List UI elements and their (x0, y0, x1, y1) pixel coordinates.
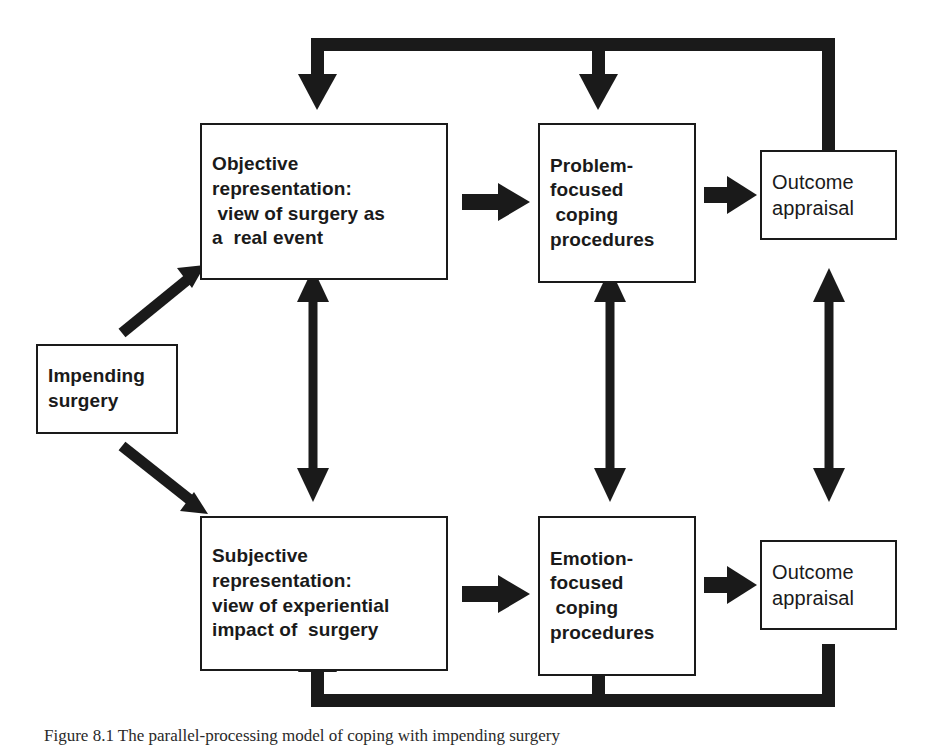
node-outcome-appraisal-bottom: Outcome appraisal (760, 540, 897, 630)
connector-coping-link (594, 268, 626, 502)
connector-representation-link (297, 268, 329, 502)
node-line: coping (550, 203, 684, 228)
node-line: focused (550, 571, 684, 596)
node-line: representation: (212, 569, 436, 594)
figure-caption: Figure 8.1 The parallel-processing model… (44, 726, 904, 746)
node-line: Problem- (550, 154, 684, 179)
node-subjective-representation: Subjective representation: view of exper… (200, 516, 448, 671)
node-line: procedures (550, 621, 684, 646)
node-line: Outcome (772, 169, 885, 195)
node-line: Objective (212, 152, 436, 177)
node-impending-surgery: Impending surgery (36, 344, 178, 434)
node-line: focused (550, 178, 684, 203)
connector-impending-to-subjective (122, 446, 208, 514)
node-line: impact of surgery (212, 618, 436, 643)
node-emotion-focused-coping: Emotion- focused coping procedures (538, 516, 696, 676)
node-line: view of surgery as (212, 202, 436, 227)
connector-objective-to-problem-focused (462, 183, 530, 221)
connector-subjective-to-emotion-focused (462, 575, 530, 613)
node-line: coping (550, 596, 684, 621)
node-line: Outcome (772, 559, 885, 585)
node-objective-representation: Objective representation: view of surger… (200, 123, 448, 280)
connector-problem-focused-to-outcome-top (704, 176, 757, 214)
node-problem-focused-coping: Problem- focused coping procedures (538, 123, 696, 283)
node-line: representation: (212, 177, 436, 202)
node-line: appraisal (772, 585, 885, 611)
connector-impending-to-objective (122, 265, 205, 333)
node-line: a real event (212, 226, 436, 251)
node-line: appraisal (772, 195, 885, 221)
connector-outcome-link (813, 268, 845, 502)
connector-emotion-focused-to-outcome-bottom (704, 566, 757, 604)
node-line: Emotion- (550, 547, 684, 572)
node-line: view of experiential (212, 594, 436, 619)
node-line: procedures (550, 228, 684, 253)
node-line: Impending (48, 364, 166, 389)
node-line: surgery (48, 389, 166, 414)
node-outcome-appraisal-top: Outcome appraisal (760, 150, 897, 240)
node-line: Subjective (212, 544, 436, 569)
